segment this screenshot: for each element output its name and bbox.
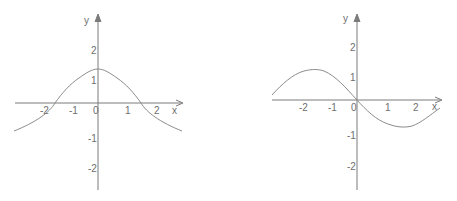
x-tick-neg2: -2 bbox=[40, 105, 49, 116]
figure: y x 0 -2 -1 1 2 2 1 -1 -2 y x 0 -2 -1 1 … bbox=[0, 0, 457, 201]
y-tick-2: 2 bbox=[91, 45, 97, 56]
x-tick-2: 2 bbox=[413, 102, 419, 113]
x-tick-neg1: -1 bbox=[328, 102, 337, 113]
y-tick-1: 1 bbox=[350, 72, 356, 83]
y-tick-neg2: -2 bbox=[347, 161, 356, 172]
curve-right bbox=[272, 70, 440, 128]
x-axis-label: x bbox=[432, 101, 437, 112]
x-tick-2: 2 bbox=[154, 105, 160, 116]
y-tick-neg2: -2 bbox=[88, 163, 97, 174]
x-tick-1: 1 bbox=[385, 102, 391, 113]
y-tick-2: 2 bbox=[350, 42, 356, 53]
x-tick-neg2: -2 bbox=[299, 102, 308, 113]
graph-left: y x 0 -2 -1 1 2 2 1 -1 -2 bbox=[14, 14, 183, 190]
origin-label: 0 bbox=[351, 102, 357, 113]
x-tick-1: 1 bbox=[125, 105, 131, 116]
y-axis-label: y bbox=[84, 15, 89, 26]
y-axis-arrow-icon bbox=[95, 14, 101, 22]
y-axis-arrow-icon bbox=[354, 14, 360, 22]
x-axis-label: x bbox=[172, 105, 177, 116]
origin-label: 0 bbox=[93, 105, 99, 116]
y-tick-1: 1 bbox=[91, 75, 97, 86]
y-axis-label: y bbox=[343, 13, 348, 24]
y-tick-neg1: -1 bbox=[347, 130, 356, 141]
x-tick-neg1: -1 bbox=[69, 105, 78, 116]
graph-right: y x 0 -2 -1 1 2 2 1 -1 -2 bbox=[272, 13, 442, 190]
y-tick-neg1: -1 bbox=[88, 133, 97, 144]
